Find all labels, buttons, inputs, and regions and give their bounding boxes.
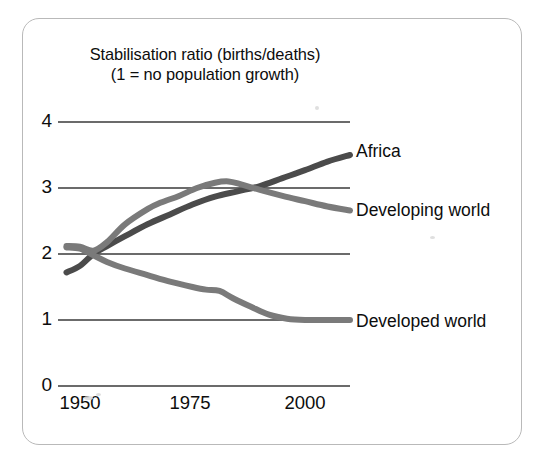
series-line-africa: [67, 155, 351, 272]
plot-area: [0, 0, 537, 465]
gridlines: [58, 122, 350, 386]
scan-speck: [84, 396, 93, 400]
scan-speck: [315, 106, 319, 110]
scan-speck: [96, 393, 101, 396]
series-line-developing-world: [67, 181, 351, 250]
chart-root: Stabilisation ratio (births/deaths) (1 =…: [0, 0, 537, 465]
scan-speck: [430, 236, 435, 239]
series-paths: [67, 155, 351, 320]
series-line-developed-world: [67, 247, 351, 320]
